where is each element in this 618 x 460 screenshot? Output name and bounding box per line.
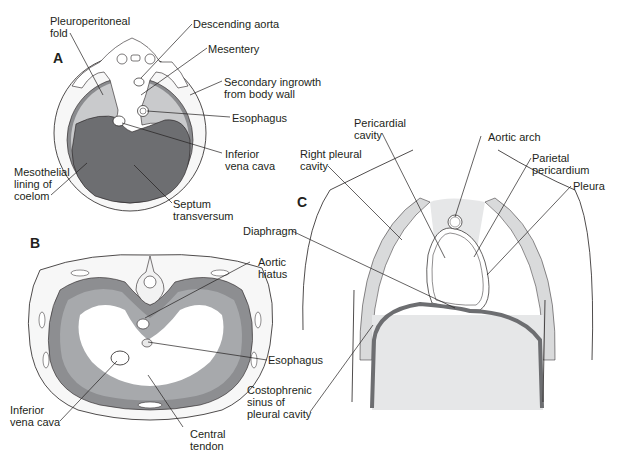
panel-label-a: A xyxy=(53,50,63,66)
panel-a-drawing xyxy=(54,38,206,211)
label-secondary-ingrowth: Secondary ingrowth from body wall xyxy=(224,76,321,100)
label-parietal-pericardium: Parietal pericardium xyxy=(532,152,589,176)
label-septum-transversum: Septum transversum xyxy=(173,198,234,222)
label-aortic-hiatus: Aortic hiatus xyxy=(258,256,287,280)
label-pleura: Pleura xyxy=(573,180,605,192)
label-esophagus-a: Esophagus xyxy=(232,112,287,124)
label-aortic-arch: Aortic arch xyxy=(488,131,541,143)
label-pleuroperitoneal-fold: Pleuroperitoneal fold xyxy=(50,15,130,39)
panel-label-c: C xyxy=(297,194,307,210)
panel-b-drawing xyxy=(28,255,272,420)
label-right-pleural-cavity: Right pleural cavity xyxy=(300,148,362,172)
label-esophagus-b: Esophagus xyxy=(268,354,323,366)
label-central-tendon: Central tendon xyxy=(190,428,225,452)
label-costophrenic-sinus: Costophrenic sinus of pleural cavity xyxy=(247,384,312,420)
label-pericardial-cavity: Pericardial cavity xyxy=(354,117,406,141)
label-diaphragm: Diaphragm xyxy=(243,225,297,237)
panel-c-drawing xyxy=(303,150,593,410)
label-inferior-vena-cava-a: Inferior vena cava xyxy=(225,148,275,172)
label-mesentery: Mesentery xyxy=(208,43,259,55)
label-inferior-vena-cava-b: Inferior vena cava xyxy=(10,404,60,428)
label-descending-aorta: Descending aorta xyxy=(193,18,279,30)
label-mesothelial-lining: Mesothelial lining of coelom xyxy=(14,166,70,202)
panel-label-b: B xyxy=(30,235,40,251)
